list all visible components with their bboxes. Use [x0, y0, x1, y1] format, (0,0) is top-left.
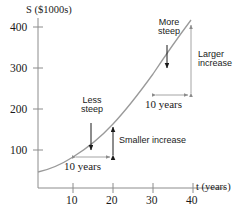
x-axis-label: t (years)	[196, 181, 231, 192]
y-tick-label-200: 200	[10, 103, 27, 115]
exponential-growth-figure: S ($1000s) t (years) 400 300 200 100 10 …	[0, 0, 242, 217]
smaller-increase-label: Smaller increase	[119, 136, 186, 145]
y-tick-label-300: 300	[10, 62, 27, 74]
less-steep-label: Less steep	[78, 96, 106, 115]
more-steep-line-2: steep	[154, 27, 184, 36]
x-tick-label-10: 10	[66, 194, 78, 206]
y-tick-label-400: 400	[10, 21, 27, 33]
larger-increase-label: Larger increase	[198, 50, 240, 69]
less-steep-line-2: steep	[78, 105, 106, 114]
x-tick-label-30: 30	[146, 194, 158, 206]
y-tick-label-100: 100	[10, 144, 27, 156]
growth-curve	[38, 20, 191, 172]
larger-increase-line-2: increase	[198, 59, 240, 68]
more-steep-label: More steep	[154, 18, 184, 37]
ten-years-right-label: 10 years	[145, 99, 182, 111]
x-tick-label-40: 40	[186, 194, 198, 206]
ten-years-left-label: 10 years	[64, 161, 101, 173]
x-tick-label-20: 20	[106, 194, 118, 206]
y-axis-label: S ($1000s)	[26, 4, 72, 15]
